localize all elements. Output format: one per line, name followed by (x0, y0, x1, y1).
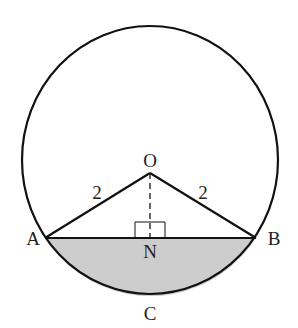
label-oa-length: 2 (92, 182, 102, 203)
label-c: C (144, 303, 157, 324)
circle-segment-diagram: O A B N C 2 2 (0, 0, 298, 328)
label-a: A (26, 228, 40, 249)
label-b: B (268, 228, 281, 249)
label-n: N (143, 241, 157, 262)
label-o: O (143, 150, 157, 171)
label-ob-length: 2 (198, 182, 208, 203)
